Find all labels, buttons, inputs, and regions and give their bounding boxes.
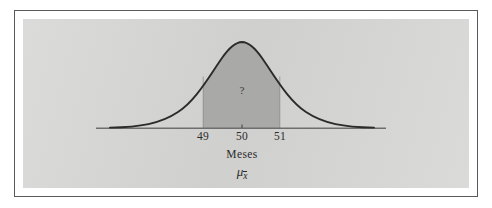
mean-symbol-xbar: x (243, 171, 247, 182)
x-tick-label-51: 51 (265, 130, 295, 142)
x-tick-label-50: 50 (227, 130, 257, 142)
normal-distribution-chart: 49 50 51 ? Meses μx (0, 0, 492, 208)
x-axis-title: Meses (192, 148, 292, 160)
x-tick-label-49: 49 (188, 130, 218, 142)
shaded-region-question-label: ? (227, 84, 257, 96)
mean-symbol-label: μx (192, 164, 292, 181)
